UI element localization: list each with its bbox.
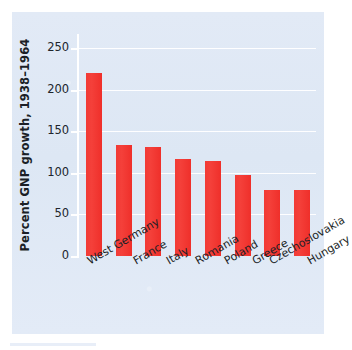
x-axis-tick-labels: West GermanyFranceItalyRomaniaPolandGree… bbox=[78, 256, 328, 336]
y-tick-mark bbox=[71, 48, 78, 50]
gridline bbox=[78, 173, 316, 174]
y-tick-mark bbox=[71, 131, 78, 133]
y-tick-mark bbox=[71, 173, 78, 175]
bar bbox=[175, 159, 191, 256]
scan-crop-mark bbox=[10, 343, 96, 346]
gridline bbox=[78, 90, 316, 91]
gridline bbox=[78, 131, 316, 132]
bar bbox=[86, 73, 102, 256]
y-tick-mark bbox=[71, 256, 78, 258]
gridline bbox=[78, 48, 316, 49]
y-tick-mark bbox=[71, 90, 78, 92]
plot-area bbox=[78, 38, 316, 256]
y-tick-mark bbox=[71, 214, 78, 216]
y-axis-title: Percent GNP growth, 1938–1964 bbox=[18, 35, 32, 255]
